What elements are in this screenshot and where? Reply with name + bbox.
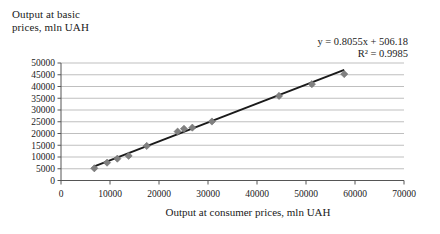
y-axis-tick-label: 50000 — [31, 58, 55, 68]
x-axis-title: Output at consumer prices, mln UAH — [0, 206, 440, 218]
y-axis-tick-label: 25000 — [31, 117, 55, 127]
y-axis-ticks-group: 0500010000150002000025000300003500040000… — [31, 58, 61, 185]
y-axis-tick-label: 40000 — [31, 82, 55, 92]
x-axis-tick-label: 50000 — [294, 189, 318, 199]
x-axis-tick-label: 60000 — [343, 189, 367, 199]
gridlines-group — [61, 63, 404, 169]
x-axis-tick-label: 20000 — [147, 189, 171, 199]
y-axis-tick-label: 45000 — [31, 70, 55, 80]
plot-area: 0500010000150002000025000300003500040000… — [0, 0, 440, 234]
x-axis-tick-label: 10000 — [98, 189, 122, 199]
y-axis-tick-label: 5000 — [36, 164, 55, 174]
trendline — [94, 70, 344, 167]
scatter-chart: Output at basic prices, mln UAH y = 0.80… — [0, 0, 440, 234]
x-axis-tick-label: 0 — [59, 189, 64, 199]
trendline-line — [94, 70, 344, 167]
x-axis-tick-label: 30000 — [196, 189, 220, 199]
data-point-marker — [143, 142, 150, 149]
y-axis-tick-label: 30000 — [31, 105, 55, 115]
x-axis-tick-label: 70000 — [392, 189, 416, 199]
y-axis-tick-label: 35000 — [31, 94, 55, 104]
y-axis-tick-label: 0 — [50, 176, 55, 186]
y-axis-tick-label: 10000 — [31, 152, 55, 162]
y-axis-tick-label: 15000 — [31, 141, 55, 151]
y-axis-tick-label: 20000 — [31, 129, 55, 139]
x-axis-ticks-group: 010000200003000040000500006000070000 — [59, 181, 417, 199]
x-axis-tick-label: 40000 — [245, 189, 269, 199]
